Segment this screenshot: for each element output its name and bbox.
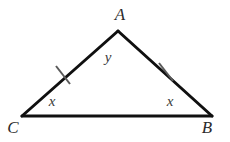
vertex-label-B: B — [202, 119, 212, 136]
side-AB — [118, 31, 212, 116]
vertex-label-A: A — [115, 6, 125, 23]
side-CA — [22, 31, 118, 116]
vertex-label-C: C — [7, 119, 18, 136]
tick-side-AB-icon — [159, 63, 173, 81]
angle-label-left-base: x — [49, 94, 56, 109]
diagram-canvas: A B C y x x — [0, 0, 230, 142]
angle-label-right-base: x — [167, 94, 174, 109]
angle-label-apex: y — [105, 50, 112, 65]
